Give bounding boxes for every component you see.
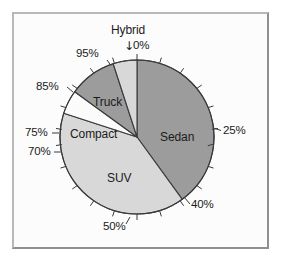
tick-label-85: 85% (36, 81, 59, 93)
tick-label-25: 25% (223, 125, 246, 137)
slice-label-sedan: Sedan (160, 131, 194, 143)
tick-label-50: 50% (103, 221, 126, 233)
tick-label-75: 75% (25, 127, 48, 139)
slice-label-hybrid: Hybrid (111, 24, 145, 36)
tick-label-0: 0% (133, 40, 149, 52)
tick-label-40: 40% (191, 199, 214, 211)
pie-chart: Sedan SUV Compact Truck Hybrid ↓ 0% 25% … (0, 0, 282, 267)
tick-label-70: 70% (28, 146, 51, 158)
slice-label-suv: SUV (107, 172, 131, 184)
slice-label-truck: Truck (93, 96, 122, 108)
tick-label-95: 95% (76, 48, 99, 60)
slice-label-compact: Compact (70, 128, 117, 140)
chart-screenshot: Sedan SUV Compact Truck Hybrid ↓ 0% 25% … (0, 0, 282, 267)
